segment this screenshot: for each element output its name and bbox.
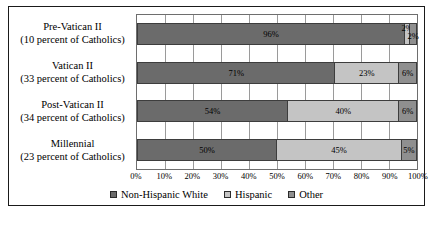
- bar-segment-value-label: 71%: [228, 69, 244, 78]
- bar-segment-value-label: 23%: [359, 69, 375, 78]
- bar-segment: 96%: [138, 24, 405, 44]
- chart-body: Pre-Vatican II(10 percent of Catholics)V…: [9, 7, 424, 175]
- category-label: Millennial(23 percent of Catholics): [9, 131, 136, 170]
- stacked-bar: 50%45%5%: [137, 139, 417, 161]
- bar-segment: 45%: [277, 140, 402, 160]
- x-axis-tick-label: 40%: [241, 171, 257, 181]
- bar-segment: 6%: [399, 101, 416, 121]
- bar-segment-value-label: 45%: [331, 146, 347, 155]
- bar-segment: 5%: [402, 140, 416, 160]
- bar-segment: 40%: [288, 101, 399, 121]
- bar-row: 50%45%5%: [137, 131, 417, 170]
- bar-segment-value-label: 6%: [402, 69, 413, 78]
- x-axis-tick-label: 100%: [408, 171, 428, 181]
- x-axis-tick-label: 90%: [382, 171, 398, 181]
- stacked-bar: 54%40%6%: [137, 100, 417, 122]
- x-axis-tick-labels: 0%10%20%30%40%50%60%70%80%90%100%: [136, 171, 418, 185]
- bar-segment-value-label: 50%: [199, 146, 215, 155]
- legend-swatch-icon: [224, 191, 231, 198]
- category-label-name: Pre-Vatican II: [43, 21, 102, 34]
- category-label-sublabel: (10 percent of Catholics): [20, 34, 125, 47]
- stacked-bar: 71%23%6%: [137, 62, 417, 84]
- x-axis-tick-label: 50%: [269, 171, 285, 181]
- stacked-bar: 96%2%2%: [137, 23, 417, 45]
- x-axis-tick-label: 20%: [185, 171, 201, 181]
- legend-label: Other: [299, 189, 323, 200]
- bar-segment: 50%: [138, 140, 277, 160]
- legend-entry[interactable]: Hispanic: [224, 189, 272, 200]
- bar-segment-value-label: 6%: [402, 107, 413, 116]
- bar-segment: 23%: [335, 63, 399, 83]
- bar-segment: 2%: [410, 24, 416, 44]
- chart-figure: Pre-Vatican II(10 percent of Catholics)V…: [8, 6, 425, 206]
- category-label-name: Millennial: [51, 138, 95, 151]
- bar-segment: 71%: [138, 63, 335, 83]
- bar-segment-value-label: 40%: [335, 107, 351, 116]
- category-label-sublabel: (23 percent of Catholics): [20, 151, 125, 164]
- plot-area: 96%2%2%71%23%6%54%40%6%50%45%5%: [136, 14, 418, 170]
- category-label-sublabel: (34 percent of Catholics): [20, 112, 125, 125]
- category-label-name: Vatican II: [52, 60, 93, 73]
- category-label-sublabel: (33 percent of Catholics): [20, 73, 125, 86]
- category-label: Vatican II(33 percent of Catholics): [9, 53, 136, 92]
- bar-segment-value-label: 5%: [403, 146, 414, 155]
- bar-series-container: 96%2%2%71%23%6%54%40%6%50%45%5%: [137, 15, 417, 169]
- bar-row: 71%23%6%: [137, 54, 417, 93]
- legend-label: Hispanic: [235, 189, 272, 200]
- legend-swatch-icon: [288, 191, 295, 198]
- bar-row: 54%40%6%: [137, 92, 417, 131]
- bar-segment: 54%: [138, 101, 288, 121]
- bar-segment-value-label: 96%: [263, 30, 279, 39]
- bar-segment-value-label: 2%: [408, 32, 419, 41]
- category-axis-labels: Pre-Vatican II(10 percent of Catholics)V…: [9, 14, 136, 170]
- category-label: Pre-Vatican II(10 percent of Catholics): [9, 14, 136, 53]
- legend-swatch-icon: [110, 191, 117, 198]
- legend-entry[interactable]: Non-Hispanic White: [110, 189, 208, 200]
- x-axis-tick-label: 0%: [130, 171, 141, 181]
- x-axis-tick-label: 10%: [156, 171, 172, 181]
- bar-segment-value-label: 54%: [205, 107, 221, 116]
- bar-segment: 6%: [399, 63, 416, 83]
- chart-legend: Non-Hispanic WhiteHispanicOther: [9, 185, 424, 203]
- legend-label: Non-Hispanic White: [121, 189, 208, 200]
- legend-entry[interactable]: Other: [288, 189, 323, 200]
- category-label-name: Post-Vatican II: [41, 99, 104, 112]
- category-label: Post-Vatican II(34 percent of Catholics): [9, 92, 136, 131]
- x-axis-tick-label: 80%: [354, 171, 370, 181]
- x-axis-tick-label: 70%: [326, 171, 342, 181]
- x-axis-tick-label: 60%: [297, 171, 313, 181]
- x-axis-tick-label: 30%: [213, 171, 229, 181]
- bar-row: 96%2%2%: [137, 15, 417, 54]
